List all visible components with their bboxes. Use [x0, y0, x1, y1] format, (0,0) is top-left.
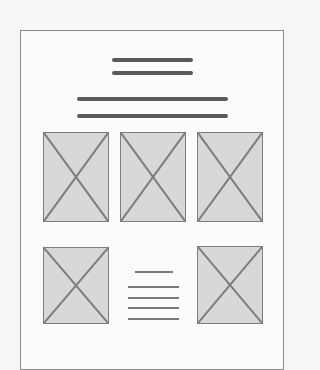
text-line [128, 286, 179, 288]
text-line [135, 271, 173, 273]
image-placeholder [120, 132, 186, 222]
image-placeholder [197, 132, 263, 222]
image-cross-icon [44, 133, 108, 221]
subtitle-line-1 [77, 97, 228, 101]
image-cross-icon [198, 247, 262, 323]
text-line [128, 307, 179, 309]
title-line-2 [112, 71, 193, 75]
title-line-1 [112, 58, 193, 62]
image-placeholder [197, 246, 263, 324]
image-cross-icon [44, 248, 108, 323]
subtitle-line-2 [77, 114, 228, 118]
image-cross-icon [121, 133, 185, 221]
image-cross-icon [198, 133, 262, 221]
image-placeholder [43, 247, 109, 324]
image-placeholder [43, 132, 109, 222]
text-line [128, 318, 179, 320]
text-line [128, 297, 179, 299]
